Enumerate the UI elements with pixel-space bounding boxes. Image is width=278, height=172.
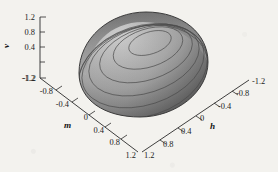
h-tick-5: -0.4 xyxy=(218,102,232,111)
h-tick-3: 0.4 xyxy=(181,127,192,136)
h-tick-2: 0.8 xyxy=(163,140,173,149)
axis-label-m: m xyxy=(64,120,71,130)
m-tick-2: -0.8 xyxy=(40,87,53,96)
axis-vertical-v: 1.2 0.8 0.4 -1.2 v xyxy=(1,13,46,83)
m-tick-4: 0 xyxy=(84,113,88,122)
dome-flank-shadow xyxy=(79,12,211,120)
h-tick-4: 0 xyxy=(200,114,204,123)
v-tick-1: 1.2 xyxy=(25,13,35,22)
m-tick-1: -1.2 xyxy=(23,74,36,83)
m-tick-7: 1.2 xyxy=(126,151,136,160)
axis-label-h: h xyxy=(210,121,215,131)
v-tick-3: 0.4 xyxy=(25,43,36,52)
plot-canvas: 1.2 0.8 0.4 -1.2 v -1.2 -0.8 -0.4 0 0.4 … xyxy=(0,0,278,172)
h-tick-7: -1.2 xyxy=(252,77,265,86)
m-tick-6: 0.8 xyxy=(110,138,120,147)
figure-3d-surface-plot: 1.2 0.8 0.4 -1.2 v -1.2 -0.8 -0.4 0 0.4 … xyxy=(0,0,278,172)
h-tick-1: 1.2 xyxy=(144,151,154,160)
v-tick-2: 0.8 xyxy=(25,28,35,37)
surface-dome xyxy=(64,8,222,143)
m-tick-3: -0.4 xyxy=(56,100,70,109)
m-tick-5: 0.4 xyxy=(94,126,105,135)
h-tick-6: -0.8 xyxy=(236,89,249,98)
axis-label-v: v xyxy=(1,43,11,48)
